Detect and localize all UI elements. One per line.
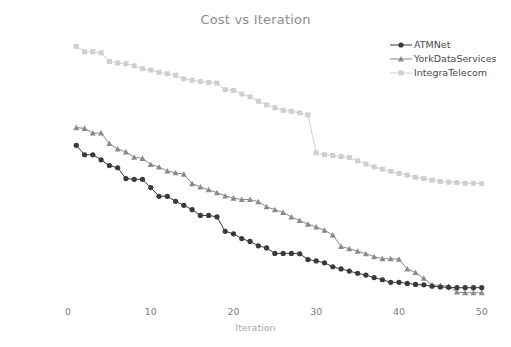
circle-marker-icon <box>388 39 414 51</box>
chart-title: Cost vs Iteration <box>0 12 511 27</box>
series-yorkdataservices <box>73 125 484 296</box>
x-tick-label: 50 <box>467 306 497 317</box>
x-tick-label: 40 <box>384 306 414 317</box>
x-axis-label: Iteration <box>0 322 511 333</box>
x-tick-label: 20 <box>218 306 248 317</box>
square-marker-icon <box>388 67 414 79</box>
x-tick-label: 30 <box>301 306 331 317</box>
chart-figure: Cost vs Iteration 1400150016001700180019… <box>0 0 511 347</box>
legend-label: YorkDataServices <box>414 53 497 64</box>
series-atmnet <box>74 143 485 291</box>
x-tick-label: 0 <box>53 306 83 317</box>
chart-legend: ATMNetYorkDataServicesIntegraTelecom <box>388 38 510 80</box>
legend-item-yorkdataservices[interactable]: YorkDataServices <box>388 52 510 65</box>
legend-item-integratelecom[interactable]: IntegraTelecom <box>388 66 510 79</box>
legend-label: IntegraTelecom <box>414 67 487 78</box>
legend-item-atmnet[interactable]: ATMNet <box>388 38 510 51</box>
legend-label: ATMNet <box>414 39 450 50</box>
triangle-marker-icon <box>388 53 414 65</box>
x-tick-label: 10 <box>136 306 166 317</box>
